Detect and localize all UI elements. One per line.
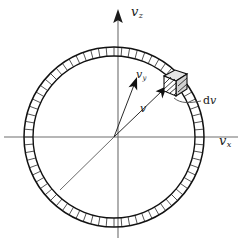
diagram-canvas bbox=[0, 0, 252, 243]
vy-vector-label: vy bbox=[136, 69, 146, 82]
v-vector-label: v bbox=[140, 103, 146, 114]
vy-subscript: y bbox=[143, 74, 147, 82]
dv-annotation-label: dv bbox=[203, 95, 216, 106]
dv-prefix: d bbox=[203, 94, 210, 107]
dv-symbol: v bbox=[210, 94, 216, 107]
vy-symbol: v bbox=[136, 68, 142, 81]
vx-subscript: x bbox=[227, 140, 232, 149]
velocity-space-diagram: vz vx vy v dv bbox=[0, 0, 252, 243]
vx-symbol: v bbox=[219, 133, 226, 148]
volume-element-cube bbox=[164, 70, 187, 96]
vx-axis-label: vx bbox=[219, 134, 231, 149]
projection-line bbox=[60, 137, 114, 190]
vz-axis-label: vz bbox=[131, 5, 143, 20]
v-vector-shaft bbox=[114, 90, 163, 137]
vz-symbol: v bbox=[131, 4, 138, 19]
v-symbol: v bbox=[140, 102, 146, 115]
vy-vector-shaft bbox=[114, 85, 134, 137]
vz-subscript: z bbox=[139, 11, 143, 20]
